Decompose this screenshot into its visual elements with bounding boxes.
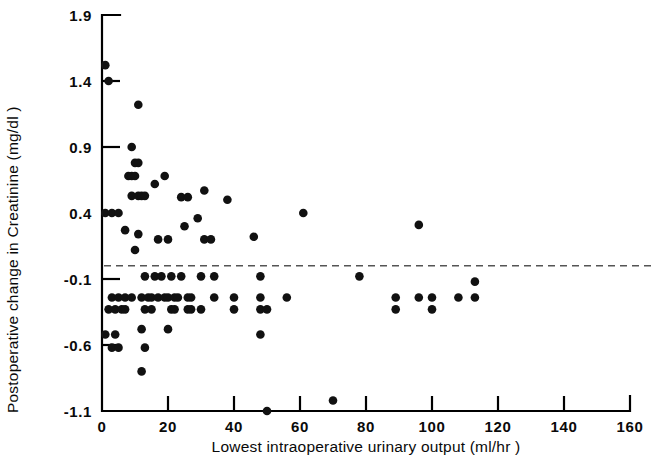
x-axis-ticks bbox=[168, 396, 564, 411]
data-point bbox=[154, 235, 163, 244]
data-point bbox=[174, 293, 183, 302]
data-point bbox=[391, 293, 400, 302]
data-point bbox=[131, 246, 140, 255]
x-tick-label: 60 bbox=[291, 418, 309, 435]
x-tick-label: 20 bbox=[159, 418, 177, 435]
data-point bbox=[230, 305, 239, 314]
data-point bbox=[210, 272, 219, 281]
data-point bbox=[131, 172, 140, 181]
data-point bbox=[263, 407, 272, 416]
data-point bbox=[121, 305, 130, 314]
x-axis-title: Lowest intraoperative urinary output (ml… bbox=[212, 438, 521, 455]
data-point bbox=[184, 193, 193, 202]
y-axis-title: Postoperative change in Creatinine (mg/d… bbox=[4, 106, 21, 413]
data-point bbox=[250, 232, 259, 241]
data-point bbox=[256, 293, 265, 302]
data-point bbox=[127, 293, 136, 302]
x-tick-label: 80 bbox=[357, 418, 375, 435]
data-point bbox=[134, 159, 143, 168]
data-point bbox=[127, 143, 136, 152]
y-tick-label: 1.9 bbox=[69, 7, 92, 24]
data-point bbox=[256, 272, 265, 281]
y-tick-label: 1.4 bbox=[69, 73, 92, 90]
data-point bbox=[200, 186, 209, 195]
x-tick-label: 40 bbox=[225, 418, 243, 435]
data-point bbox=[283, 293, 292, 302]
data-point bbox=[180, 222, 189, 231]
y-tick-label: -0.1 bbox=[64, 271, 92, 288]
x-tick-label: 100 bbox=[419, 418, 446, 435]
data-point bbox=[428, 293, 437, 302]
data-points-layer bbox=[101, 61, 479, 415]
data-point bbox=[141, 343, 150, 352]
data-point bbox=[256, 330, 265, 339]
axis-lines bbox=[102, 15, 630, 411]
data-point bbox=[167, 272, 176, 281]
data-point bbox=[137, 367, 146, 376]
y-tick-label: 0.9 bbox=[69, 139, 92, 156]
data-point bbox=[187, 293, 196, 302]
data-point bbox=[415, 293, 424, 302]
y-axis-tick-labels: -1.1-0.6-0.10.40.91.41.9 bbox=[64, 7, 92, 420]
y-tick-label: 0.4 bbox=[69, 205, 92, 222]
data-point bbox=[197, 305, 206, 314]
x-tick-label: 120 bbox=[485, 418, 512, 435]
data-point bbox=[111, 330, 120, 339]
data-point bbox=[471, 293, 480, 302]
data-point bbox=[151, 180, 160, 189]
x-tick-label: 0 bbox=[98, 418, 107, 435]
data-point bbox=[263, 305, 272, 314]
data-point bbox=[177, 272, 186, 281]
x-tick-label: 160 bbox=[617, 418, 644, 435]
data-point bbox=[207, 235, 216, 244]
data-point bbox=[160, 172, 169, 181]
data-point bbox=[223, 196, 232, 205]
data-point bbox=[121, 226, 130, 235]
data-point bbox=[355, 272, 364, 281]
y-tick-label: -1.1 bbox=[64, 403, 92, 420]
data-point bbox=[170, 305, 179, 314]
data-point bbox=[164, 325, 173, 334]
data-point bbox=[329, 396, 338, 405]
data-point bbox=[157, 272, 166, 281]
data-point bbox=[114, 343, 123, 352]
data-point bbox=[415, 221, 424, 230]
data-point bbox=[454, 293, 463, 302]
data-point bbox=[134, 100, 143, 109]
data-point bbox=[141, 272, 150, 281]
data-point bbox=[197, 272, 206, 281]
data-point bbox=[210, 293, 219, 302]
axis-frame bbox=[102, 15, 630, 411]
data-point bbox=[114, 209, 123, 218]
data-point bbox=[164, 235, 173, 244]
data-point bbox=[137, 325, 146, 334]
data-point bbox=[428, 305, 437, 314]
data-point bbox=[187, 305, 196, 314]
data-point bbox=[101, 330, 110, 339]
y-tick-label: -0.6 bbox=[64, 337, 92, 354]
data-point bbox=[471, 277, 480, 286]
data-point bbox=[391, 305, 400, 314]
data-point bbox=[193, 214, 202, 223]
x-tick-label: 140 bbox=[551, 418, 578, 435]
data-point bbox=[104, 77, 113, 86]
data-point bbox=[141, 192, 150, 201]
data-point bbox=[299, 209, 308, 218]
data-point bbox=[101, 61, 110, 70]
data-point bbox=[134, 230, 143, 239]
data-point bbox=[147, 305, 156, 314]
chart-canvas: -1.1-0.6-0.10.40.91.41.9 020406080100120… bbox=[0, 0, 653, 458]
scatter-plot-figure: -1.1-0.6-0.10.40.91.41.9 020406080100120… bbox=[0, 0, 653, 458]
data-point bbox=[230, 293, 239, 302]
x-axis-tick-labels: 020406080100120140160 bbox=[98, 418, 644, 435]
